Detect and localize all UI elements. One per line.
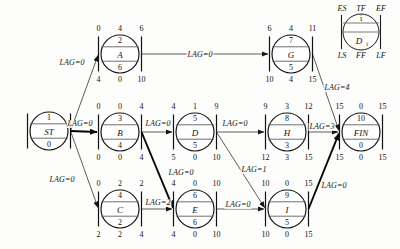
node-i[interactable]: [266, 190, 309, 228]
legend-layer: [342, 14, 381, 50]
node-b[interactable]: [99, 113, 142, 151]
node-h[interactable]: [266, 113, 309, 151]
diagram-svg: [0, 0, 400, 249]
node-g[interactable]: [270, 35, 313, 73]
node-st[interactable]: [28, 112, 71, 150]
node-e[interactable]: [174, 190, 217, 228]
network-diagram-canvas: ES TF EF LS FF LF i D i LAG=0LAG=0LAG=0L…: [0, 0, 400, 249]
edge-d-to-i: [217, 132, 265, 208]
node-fin[interactable]: [340, 113, 383, 151]
edge-st-to-c: [71, 131, 98, 208]
edge-g-to-fin: [313, 54, 340, 131]
node-d[interactable]: [174, 113, 217, 151]
node-c[interactable]: [99, 190, 142, 228]
edge-st-to-a: [71, 55, 98, 131]
edge-st-to-b: [71, 131, 98, 132]
edge-b-to-e: [142, 132, 173, 208]
edge-i-to-fin: [309, 133, 339, 209]
node-a[interactable]: [99, 35, 142, 73]
